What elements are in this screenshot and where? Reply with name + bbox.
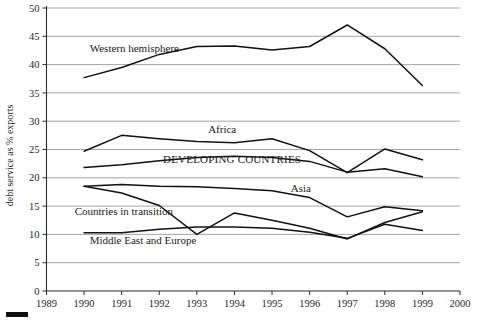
series-labels-group: Western hemisphereAfricaDEVELOPING COUNT… — [75, 42, 311, 246]
x-tick-label-1999: 1999 — [412, 298, 433, 309]
series-label-countries-in-transition: Countries in transition — [75, 205, 174, 217]
x-tick-label-1991: 1991 — [111, 298, 132, 309]
y-tick-label-10: 10 — [29, 229, 40, 240]
x-tick-label-1989: 1989 — [36, 298, 57, 309]
legend-bar — [6, 312, 28, 317]
y-tick-label-15: 15 — [29, 201, 40, 212]
x-tick-label-1997: 1997 — [337, 298, 358, 309]
debt-service-line-chart: 05101520253035404550 1989199019911992199… — [0, 0, 477, 323]
y-tick-label-5: 5 — [34, 257, 39, 268]
series-label-western-hemisphere: Western hemisphere — [90, 42, 179, 54]
chart-canvas: 05101520253035404550 1989199019911992199… — [0, 0, 477, 323]
y-tick-label-40: 40 — [29, 59, 40, 70]
x-tick-label-1996: 1996 — [299, 298, 320, 309]
y-axis-title-group: debt service as % exports — [4, 105, 15, 207]
y-tick-labels-group: 05101520253035404550 — [29, 3, 40, 297]
y-axis-title: debt service as % exports — [4, 105, 15, 207]
y-tick-label-50: 50 — [29, 3, 40, 14]
y-tick-label-30: 30 — [29, 116, 40, 127]
x-tick-label-1993: 1993 — [186, 298, 207, 309]
y-tick-label-25: 25 — [29, 144, 40, 155]
series-label-africa: Africa — [208, 123, 236, 135]
series-label-developing-countries: DEVELOPING COUNTRIES — [163, 153, 301, 165]
x-tick-labels-group: 1989199019911992199319941995199619971998… — [36, 298, 471, 309]
y-tick-label-35: 35 — [29, 88, 40, 99]
series-line-western-hemisphere — [84, 25, 422, 86]
x-tick-label-1994: 1994 — [224, 298, 246, 309]
x-tick-label-2000: 2000 — [450, 298, 471, 309]
y-tick-label-0: 0 — [34, 286, 39, 297]
series-label-asia: Asia — [291, 182, 311, 194]
y-tick-label-45: 45 — [29, 31, 40, 42]
y-tick-label-20: 20 — [29, 172, 40, 183]
x-tick-label-1995: 1995 — [262, 298, 283, 309]
series-label-middle-east-and-europe: Middle East and Europe — [90, 234, 197, 246]
x-tick-label-1990: 1990 — [74, 298, 95, 309]
x-tick-label-1992: 1992 — [149, 298, 170, 309]
x-tick-label-1998: 1998 — [374, 298, 395, 309]
